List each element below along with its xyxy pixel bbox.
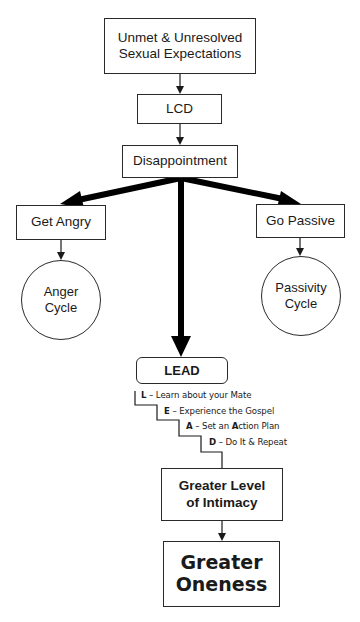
lead-step-l-text: Learn about your Mate <box>156 390 252 400</box>
node-unmet-expectations: Unmet & Unresolved Sexual Expectations <box>104 18 256 74</box>
lead-step-d-text: Do It & Repeat <box>226 437 288 447</box>
node-anger-cycle: Anger Cycle <box>21 260 101 340</box>
node-get-angry-label: Get Angry <box>31 214 91 230</box>
node-greater-intimacy: Greater Level of Intimacy <box>161 468 283 521</box>
node-passivity-cycle-line1: Passivity <box>275 280 326 296</box>
node-intimacy-line2: of Intimacy <box>179 495 265 511</box>
edge-lcd-to-disappointment <box>176 124 184 145</box>
lead-step-d-dash: – <box>216 437 225 447</box>
node-passivity-cycle-line2: Cycle <box>275 296 326 312</box>
lead-step-e-dash: – <box>170 406 179 416</box>
lead-step-d: D – Do It & Repeat <box>209 437 287 447</box>
node-oneness-line1: Greater <box>176 552 268 574</box>
node-anger-cycle-line2: Cycle <box>44 300 79 316</box>
node-lead: LEAD <box>136 357 228 384</box>
lead-step-d-key: D <box>209 437 216 447</box>
node-unmet-line2: Sexual Expectations <box>118 46 243 62</box>
node-anger-cycle-line1: Anger <box>44 284 79 300</box>
node-lcd-label: LCD <box>166 101 193 117</box>
lead-step-a-text-after: ction Plan <box>238 421 279 431</box>
lead-step-e-text: Experience the Gospel <box>179 406 274 416</box>
node-disappointment: Disappointment <box>122 145 238 178</box>
flowchart-canvas: Unmet & Unresolved Sexual Expectations L… <box>0 0 360 622</box>
lead-step-a-dash: – <box>193 421 202 431</box>
lead-step-e: E – Experience the Gospel <box>164 406 274 416</box>
lead-step-l: L – Learn about your Mate <box>141 390 251 400</box>
edge-disappointment-to-get-angry <box>60 178 181 208</box>
node-greater-oneness: Greater Oneness <box>163 541 280 607</box>
node-oneness-line2: Oneness <box>176 574 268 596</box>
node-lcd: LCD <box>137 94 222 124</box>
edge-disappointment-to-lead <box>171 178 191 357</box>
node-go-passive-label: Go Passive <box>266 213 335 229</box>
node-unmet-line1: Unmet & Unresolved <box>118 30 243 46</box>
node-get-angry: Get Angry <box>16 205 106 240</box>
node-go-passive: Go Passive <box>256 204 345 238</box>
edge-get-angry-to-anger-cycle <box>57 240 65 260</box>
edge-go-passive-to-passivity-cycle <box>296 238 304 256</box>
lead-step-a-text-before: Set an <box>202 421 232 431</box>
lead-step-a: A – Set an Action Plan <box>186 421 279 431</box>
lead-step-l-dash: – <box>146 390 155 400</box>
node-lead-label: LEAD <box>164 363 199 379</box>
node-disappointment-label: Disappointment <box>133 153 227 169</box>
edge-intimacy-to-oneness <box>218 521 226 541</box>
edge-unmet-to-lcd <box>176 74 184 94</box>
node-intimacy-line1: Greater Level <box>179 478 265 494</box>
node-passivity-cycle: Passivity Cycle <box>261 256 341 336</box>
